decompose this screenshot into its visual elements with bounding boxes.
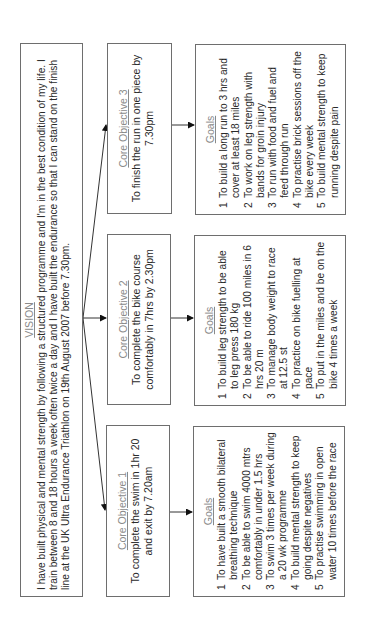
goal-item: 4To practice on bike fuelling at pace (291, 240, 316, 399)
core-objective-1-heading: Core Objective 1 (116, 426, 129, 596)
goals-1-heading: Goals (202, 427, 215, 596)
goal-item: 2To work on leg strength with bands for … (243, 49, 268, 208)
core-objective-2-heading: Core Objective 2 (117, 235, 130, 404)
vision-statement: I have built physical and mental strengt… (36, 44, 72, 596)
core-objective-3-text: To finish the run in one piece by 7.30pm (130, 44, 155, 213)
core-objective-3-box: Core Objective 3 To finish the run in on… (107, 43, 172, 214)
goals-2-heading: Goals (203, 236, 216, 405)
goal-item: 5To put in the miles and be on the bike … (315, 240, 340, 399)
goals-1-box: Goals 1To have built a smooth bilateral … (193, 426, 345, 597)
goal-item: 5To practise swimming in open water 10 t… (314, 431, 339, 590)
goals-3-list: 1To build a long run to 3 hrs and cover … (218, 45, 341, 214)
goals-2-list: 1To build leg strength to be able to leg… (217, 236, 340, 405)
arrow-vision-to-objective-1 (83, 318, 105, 510)
goals-2-box: Goals 1To build leg strength to be able … (194, 235, 346, 406)
core-objective-2-box: Core Objective 2 To complete the bike co… (107, 234, 171, 405)
goal-item: 1To build leg strength to be able to leg… (217, 240, 242, 399)
goal-item: 1To build a long run to 3 hrs and cover … (218, 49, 243, 208)
goal-item: 1To have built a smooth bilateral breath… (216, 431, 241, 590)
goal-item: 3To run with food and fuel and feed thro… (267, 49, 292, 208)
goal-item: 3To manage body weight to race at 12.5 s… (266, 240, 291, 399)
goal-item: 4To build mental strength to keep going … (290, 431, 315, 590)
goal-item: 4To practise brick sessions off the bike… (292, 49, 317, 208)
core-objective-1-box: Core Objective 1 To complete the swim in… (106, 425, 170, 597)
goals-3-heading: Goals (204, 45, 217, 214)
goals-1-list: 1To have built a smooth bilateral breath… (216, 427, 339, 596)
core-objective-3-heading: Core Objective 3 (117, 44, 130, 213)
core-objective-2-text: To complete the bike course comfortably … (130, 235, 155, 404)
arrow-vision-to-objective-3 (83, 125, 106, 318)
goal-item: 3To swim 3 times per week during a 20 wk… (265, 431, 290, 590)
core-objective-1-text: To complete the swim in 1hr 20 and exit … (129, 426, 154, 596)
vision-objectives-goals-diagram: VISION I have built physical and mental … (0, 0, 365, 636)
goal-item: 5To build mental strength to keep runnin… (316, 49, 341, 208)
vision-box: VISION I have built physical and mental … (20, 43, 83, 597)
goal-item: 2To be able to ride 100 miles in 6 hrs 2… (242, 240, 267, 399)
goal-item: 2To be able to swim 4000 mtrs comfortabl… (241, 431, 266, 590)
vision-heading: VISION (23, 44, 36, 596)
goals-3-box: Goals 1To build a long run to 3 hrs and … (195, 44, 346, 215)
